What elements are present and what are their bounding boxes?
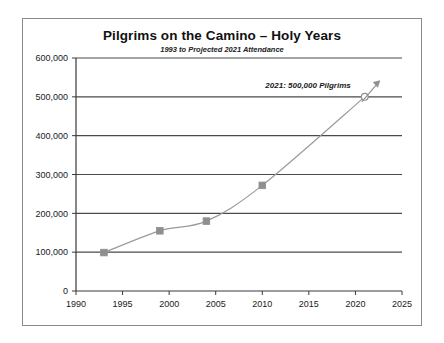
y-axis-tick-label: 300,000 [35, 170, 68, 180]
data-point-marker-projected[interactable] [361, 93, 368, 100]
x-axis-tick-label: 2025 [392, 299, 412, 309]
y-axis-tick-label: 600,000 [35, 53, 68, 63]
x-axis-tick-label: 2010 [252, 299, 272, 309]
x-axis-tick-label: 2005 [206, 299, 226, 309]
chart-frame: Pilgrims on the Camino – Holy Years 1993… [22, 18, 422, 326]
y-axis-tick-label: 100,000 [35, 247, 68, 257]
y-axis-tick-label: 0 [63, 286, 68, 296]
annotation-label: 2021: 500,000 Pilgrims [264, 81, 351, 90]
x-axis-tick-label: 2000 [159, 299, 179, 309]
data-point-marker[interactable] [259, 182, 266, 189]
y-axis-tick-label: 500,000 [35, 92, 68, 102]
data-point-marker[interactable] [101, 249, 108, 256]
x-axis-tick-label: 2015 [299, 299, 319, 309]
y-axis-tick-label: 400,000 [35, 131, 68, 141]
annotation-arrow-head [373, 81, 380, 88]
x-axis-tick-label: 2020 [345, 299, 365, 309]
y-axis-tick-label: 200,000 [35, 209, 68, 219]
line-chart-plot: 0100,000200,000300,000400,000500,000600,… [23, 19, 423, 327]
x-axis-tick-label: 1995 [113, 299, 133, 309]
data-point-marker[interactable] [157, 228, 164, 235]
x-axis-tick-label: 1990 [66, 299, 86, 309]
data-point-marker[interactable] [203, 218, 210, 225]
